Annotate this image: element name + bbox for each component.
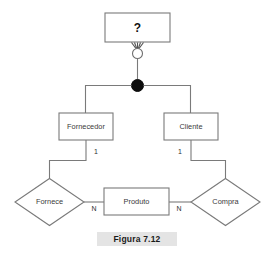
disjointness-filled-circle-icon[interactable] <box>132 80 144 92</box>
figure-caption-text: Figura 7.12 <box>113 234 160 244</box>
er-diagram-canvas: ? Fornecedor Cliente 1 1 Fornece Compra <box>0 0 273 254</box>
connector-hub-to-cliente <box>144 86 191 114</box>
entity-label-fornecedor: Fornecedor <box>67 122 105 131</box>
connector-hub-to-fornecedor <box>86 86 132 114</box>
entity-label-produto: Produto <box>124 197 150 206</box>
cardinality-produto-compra: N <box>176 205 181 212</box>
relationship-label-compra: Compra <box>212 197 239 206</box>
relationship-label-fornece: Fornece <box>36 197 63 206</box>
cardinality-fornecedor-fornece: 1 <box>94 148 98 155</box>
supertype-entity-label: ? <box>134 21 141 35</box>
connector-cliente-to-compra <box>191 140 226 179</box>
cardinality-fornece-produto: N <box>91 205 96 212</box>
specialization-hollow-circle-icon[interactable] <box>133 49 143 59</box>
entity-label-cliente: Cliente <box>179 122 202 131</box>
figure-caption-band: Figura 7.12 <box>97 232 177 246</box>
cardinality-cliente-compra: 1 <box>178 148 182 155</box>
er-diagram-figure: ? Fornecedor Cliente 1 1 Fornece Compra <box>0 0 273 254</box>
connector-fornecedor-to-fornece <box>50 140 87 179</box>
